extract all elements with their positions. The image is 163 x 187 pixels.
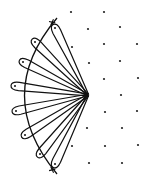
loop-8 <box>49 95 89 173</box>
grid-dot <box>86 127 88 129</box>
dot-grid <box>70 11 139 164</box>
grid-dot <box>119 60 121 62</box>
loop-center-dot <box>14 85 16 87</box>
grid-dot <box>88 162 90 164</box>
loop-outline <box>51 95 88 168</box>
grid-dot <box>70 11 72 13</box>
loop-center-dot <box>15 110 17 112</box>
loop-4 <box>11 82 88 96</box>
grid-dot <box>103 78 105 80</box>
grid-dot <box>104 145 106 147</box>
grid-dot <box>103 11 105 13</box>
loop-center-dot <box>24 134 26 136</box>
loop-center-dot <box>34 41 36 43</box>
grid-dot <box>137 144 139 146</box>
grid-dot <box>137 77 139 79</box>
loop-center-dot <box>22 61 24 63</box>
grid-dot <box>71 46 73 48</box>
loop-strands <box>11 19 89 172</box>
grid-dot <box>121 127 123 129</box>
grid-dot <box>71 145 73 147</box>
grid-dot <box>87 28 89 30</box>
grid-dot <box>121 162 123 164</box>
grid-dot <box>88 62 90 64</box>
grid-dot <box>119 26 121 28</box>
fan-loop-diagram <box>0 0 163 187</box>
loop-outline <box>36 94 88 157</box>
loop-7 <box>36 94 88 157</box>
grid-dot <box>120 94 122 96</box>
grid-dot <box>136 110 138 112</box>
loop-center-dot <box>39 153 41 155</box>
loop-center-dot <box>54 27 56 29</box>
grid-dot <box>103 43 105 45</box>
loop-outline <box>11 82 88 96</box>
loop-center-dot <box>54 163 56 165</box>
grid-dot <box>104 111 106 113</box>
grid-dot <box>136 43 138 45</box>
